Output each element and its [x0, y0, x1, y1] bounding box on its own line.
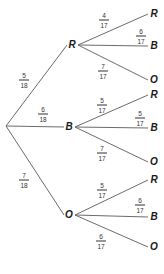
probability-o: 718	[19, 172, 29, 189]
fraction-bar	[97, 153, 107, 154]
probability-b-b: 517	[135, 110, 145, 127]
leaf-b-r: R	[150, 90, 157, 100]
leaf-r-o: O	[150, 75, 158, 85]
branch-first-b	[6, 126, 64, 127]
denominator: 17	[99, 73, 106, 80]
leaf-o-o: O	[150, 242, 158, 252]
fraction-bar	[96, 241, 106, 242]
node-b: B	[65, 122, 72, 132]
numerator: 6	[41, 106, 45, 113]
denominator: 17	[97, 243, 104, 250]
numerator: 7	[101, 63, 105, 70]
numerator: 6	[139, 28, 143, 35]
node-o: O	[65, 210, 73, 220]
branch-b-o	[75, 127, 148, 162]
numerator: 5	[22, 72, 26, 79]
probability-r: 518	[19, 72, 29, 89]
branch-r-o	[78, 45, 148, 80]
denominator: 17	[136, 207, 143, 214]
numerator: 7	[22, 172, 26, 179]
probability-b-o: 717	[97, 145, 107, 162]
numerator: 5	[100, 97, 104, 104]
probability-b: 618	[38, 106, 48, 123]
denominator: 17	[98, 192, 105, 199]
branch-first-r	[6, 45, 67, 126]
leaf-b-o: O	[150, 157, 158, 167]
fraction-bar	[135, 205, 145, 206]
fraction-bar	[19, 180, 29, 181]
branch-b-b	[75, 127, 148, 128]
leaf-b-b: B	[150, 123, 157, 133]
fraction-bar	[19, 80, 29, 81]
probability-r-r: 417	[99, 12, 109, 29]
denominator: 18	[20, 182, 27, 189]
leaf-o-b: B	[150, 212, 157, 222]
fraction-bar	[99, 20, 109, 21]
branch-r-b	[78, 45, 148, 46]
fraction-bar	[97, 105, 107, 106]
fraction-bar	[38, 114, 48, 115]
probability-r-o: 717	[98, 63, 108, 80]
branch-o-o	[75, 215, 148, 247]
fraction-bar	[135, 118, 145, 119]
probability-o-b: 617	[135, 197, 145, 214]
probability-o-r: 517	[97, 182, 107, 199]
denominator: 17	[137, 38, 144, 45]
branch-first-o	[6, 126, 64, 215]
fraction-bar	[97, 190, 107, 191]
leaf-o-r: R	[150, 175, 157, 185]
branch-o-b	[75, 215, 148, 217]
numerator: 5	[100, 182, 104, 189]
denominator: 18	[39, 116, 46, 123]
fraction-bar	[98, 71, 108, 72]
leaf-r-b: B	[150, 41, 157, 51]
leaf-r-r: R	[150, 9, 157, 19]
denominator: 17	[136, 120, 143, 127]
denominator: 17	[100, 22, 107, 29]
numerator: 4	[102, 12, 106, 19]
denominator: 18	[20, 82, 27, 89]
node-r: R	[68, 40, 75, 50]
probability-r-b: 617	[136, 28, 146, 45]
fraction-bar	[136, 36, 146, 37]
denominator: 17	[98, 155, 105, 162]
probability-o-o: 617	[96, 233, 106, 250]
numerator: 7	[100, 145, 104, 152]
denominator: 17	[98, 107, 105, 114]
numerator: 5	[138, 110, 142, 117]
numerator: 6	[138, 197, 142, 204]
numerator: 6	[99, 233, 103, 240]
probability-b-r: 517	[97, 97, 107, 114]
